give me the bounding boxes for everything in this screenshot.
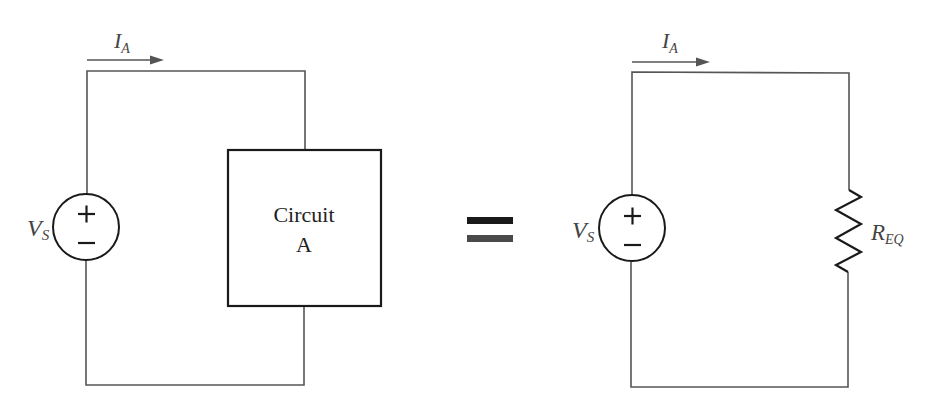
circuit-a-label-line1: Circuit [273,202,334,227]
equals-sign-icon [467,217,513,242]
right-circuit: IA VS REQ [572,28,904,387]
right-wire-top [632,72,849,195]
left-circuit: IA VS Circuit A [27,28,381,385]
circuit-a-block: Circuit A [228,150,381,306]
right-current-label: IA [661,28,678,56]
circuit-equivalence-diagram: IA VS Circuit A [0,0,932,408]
voltage-source-circle-icon [53,194,119,260]
circuit-a-label-line2: A [296,232,312,257]
right-voltage-source [599,195,665,261]
left-voltage-source [53,194,119,260]
resistor-label: REQ [870,220,904,247]
left-current-label: IA [113,28,130,56]
left-current-arrow-icon [87,56,164,65]
right-wire-bottom [631,262,848,387]
resistor-icon [836,190,861,272]
left-source-label: VS [27,215,50,243]
right-current-arrow-icon [632,58,710,67]
voltage-source-circle-icon [599,195,665,261]
right-source-label: VS [572,217,595,245]
